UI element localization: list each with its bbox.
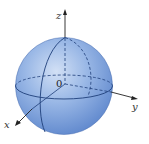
origin-label: 0 <box>56 78 62 89</box>
z-axis-label: z <box>55 10 62 21</box>
sphere <box>16 38 113 135</box>
sphere-diagram: z 0 y x <box>0 0 149 144</box>
y-axis-arrow-icon <box>131 96 138 100</box>
y-axis-label: y <box>131 101 138 112</box>
x-axis-label: x <box>4 119 10 130</box>
z-axis-arrow-icon <box>63 9 67 15</box>
y-axis <box>111 92 134 98</box>
